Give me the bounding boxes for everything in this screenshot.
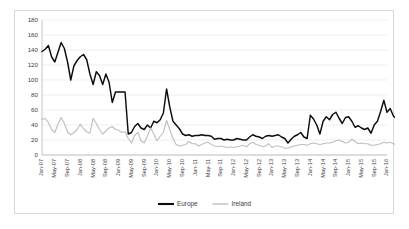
x-axis-tick-label: Jan-12 [230, 159, 236, 176]
x-axis-tick-label: May-07 [51, 159, 57, 178]
x-axis-tick-label: May-09 [128, 159, 134, 178]
x-axis-tick-label: Jan-13 [268, 159, 274, 176]
x-axis-tick-label: May-15 [358, 159, 364, 178]
x-axis-tick-label: Sep-12 [256, 159, 262, 177]
x-axis-tick-label: Jan-09 [115, 159, 121, 176]
x-axis-tick-label: Sep-15 [371, 159, 377, 177]
x-axis-tick-label: Sep-09 [141, 159, 147, 177]
legend-label-europe: Europe [177, 200, 198, 208]
x-axis-tick-label: Sep-08 [102, 159, 108, 177]
y-axis-tick-label: 120 [28, 61, 39, 68]
y-axis-tick-label: 140 [28, 46, 39, 53]
x-axis-tick-label: May-11 [205, 159, 211, 177]
x-axis-tick-label: Jan-15 [345, 159, 351, 176]
x-axis-tick-label: Jan-10 [153, 159, 159, 176]
gridlines [42, 20, 387, 155]
series-line-europe [42, 35, 395, 143]
y-axis-tick-label: 0 [35, 151, 39, 158]
x-axis-tick-label: Jan-14 [307, 159, 313, 176]
x-axis-tick-label: May-10 [166, 159, 172, 178]
x-axis-tick-label: May-14 [320, 159, 326, 178]
x-axis-tick-label: Jan-08 [77, 159, 83, 176]
x-axis-tick-label: Jan-11 [192, 159, 198, 176]
data-series [42, 35, 395, 148]
x-axis-tick-label: Sep-14 [332, 159, 338, 177]
chart-container: 020406080100120140160180 Jan-07May-07Sep… [14, 10, 394, 214]
y-axis-tick-labels: 020406080100120140160180 [28, 16, 39, 158]
x-axis-tick-label: May-08 [90, 159, 96, 178]
axis-lines [42, 20, 387, 155]
x-axis-tick-label: May-13 [281, 159, 287, 178]
line-chart: 020406080100120140160180 Jan-07May-07Sep… [15, 11, 395, 215]
x-axis-tick-label: Sep-07 [64, 159, 70, 177]
x-axis-tick-label: Sep-10 [179, 159, 185, 177]
x-axis-tick-label: May-12 [243, 159, 249, 178]
x-axis-tick-label: Jan-16 [383, 159, 389, 176]
y-axis-tick-label: 160 [28, 31, 39, 38]
legend-label-ireland: Ireland [232, 200, 252, 207]
x-axis-tick-label: Sep-11 [217, 159, 223, 177]
x-axis-tick-label: Jan-07 [38, 159, 44, 176]
y-axis-tick-label: 40 [31, 121, 38, 128]
y-axis-tick-label: 20 [31, 136, 38, 143]
y-axis-tick-label: 60 [31, 106, 38, 113]
y-axis-tick-label: 180 [28, 16, 39, 23]
y-axis-tick-label: 80 [31, 91, 38, 98]
series-line-ireland [42, 112, 395, 149]
x-axis-tick-label: Sep-13 [294, 159, 300, 177]
chart-legend: EuropeIreland [158, 200, 252, 208]
x-axis-tick-labels: Jan-07May-07Sep-07Jan-08May-08Sep-08Jan-… [38, 159, 389, 178]
y-axis-tick-label: 100 [28, 76, 39, 83]
